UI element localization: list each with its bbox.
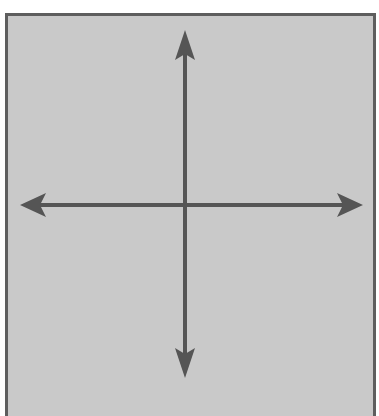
- horizontal-axis: [20, 193, 363, 217]
